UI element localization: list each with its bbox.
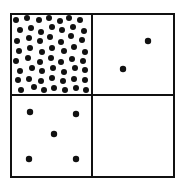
dot [15, 77, 21, 83]
dot-grid-diagram [0, 0, 176, 190]
dot [81, 28, 87, 34]
dot [25, 55, 31, 61]
dot [28, 25, 34, 31]
dot [37, 38, 43, 44]
dot [61, 69, 67, 75]
dot [50, 65, 56, 71]
dot [17, 27, 23, 33]
dot [73, 156, 79, 162]
dot [73, 85, 79, 91]
dot [17, 68, 23, 74]
dot [68, 33, 74, 39]
dot [51, 131, 57, 137]
dot [26, 76, 32, 82]
dot [18, 87, 24, 93]
dot [26, 156, 32, 162]
dot [27, 45, 33, 51]
dot [79, 37, 85, 43]
dot [27, 109, 33, 115]
dot [48, 55, 54, 61]
dot [82, 49, 88, 55]
dot [24, 15, 30, 21]
dot [58, 39, 64, 45]
dot [58, 59, 64, 65]
dot [51, 85, 57, 91]
dot [66, 15, 72, 21]
dot [13, 17, 19, 23]
dot [16, 48, 22, 54]
dot [80, 58, 86, 64]
dot [49, 75, 55, 81]
dot [59, 27, 65, 33]
dot [13, 58, 19, 64]
dot [37, 59, 43, 65]
dot [82, 67, 88, 73]
dot [70, 24, 76, 30]
dot [41, 87, 47, 93]
dot [14, 38, 20, 44]
dot [61, 48, 67, 54]
dot [120, 66, 126, 72]
dot [72, 65, 78, 71]
dot [57, 18, 63, 24]
dot [29, 65, 35, 71]
dot [26, 35, 32, 41]
dot [60, 78, 66, 84]
dot [73, 111, 79, 117]
dot [83, 87, 89, 93]
dot [62, 87, 68, 93]
dot [36, 17, 42, 23]
dot [38, 78, 44, 84]
dot [145, 38, 151, 44]
dot [39, 49, 45, 55]
dot [31, 84, 37, 90]
dot [38, 29, 44, 35]
dot [47, 34, 53, 40]
dot [49, 24, 55, 30]
dot [71, 76, 77, 82]
dot [49, 45, 55, 51]
dot [39, 68, 45, 74]
dot [46, 15, 52, 21]
dot [77, 17, 83, 23]
dot [71, 44, 77, 50]
dot [69, 56, 75, 62]
dot [82, 77, 88, 83]
